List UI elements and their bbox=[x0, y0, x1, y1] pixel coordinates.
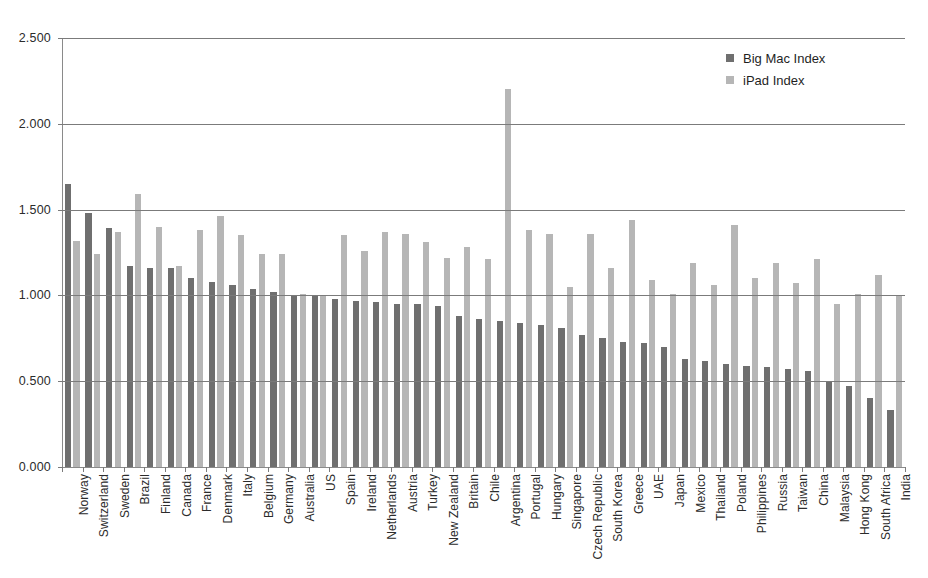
legend-item-big-mac: Big Mac Index bbox=[726, 48, 896, 68]
x-axis-tick-mark bbox=[391, 467, 392, 472]
x-axis-tick-label: Sweden bbox=[118, 474, 132, 518]
bar-big-mac-index bbox=[517, 323, 523, 467]
x-axis-tick-label: Ireland bbox=[365, 474, 379, 511]
gridline bbox=[62, 210, 905, 211]
x-axis-tick-label: Poland bbox=[735, 474, 749, 512]
bar-big-mac-index bbox=[558, 328, 564, 467]
x-axis-tick-mark bbox=[309, 467, 310, 472]
bar-big-mac-index bbox=[394, 304, 400, 467]
x-axis-tick-mark bbox=[247, 467, 248, 472]
x-axis-tick-mark bbox=[473, 467, 474, 472]
chart-legend: Big Mac Index iPad Index bbox=[726, 48, 896, 92]
bar-group bbox=[720, 38, 741, 467]
gridline bbox=[62, 38, 905, 39]
bar-big-mac-index bbox=[661, 347, 667, 467]
bar-group bbox=[597, 38, 618, 467]
bar-group bbox=[412, 38, 433, 467]
x-axis-tick-mark bbox=[453, 467, 454, 472]
bar-big-mac-index bbox=[209, 282, 215, 467]
x-axis-tick-mark bbox=[103, 467, 104, 472]
bar-group bbox=[103, 38, 124, 467]
x-axis-tick-label: Turkey bbox=[426, 474, 440, 511]
x-axis-tick-mark bbox=[699, 467, 700, 472]
x-axis-tick-label: South Korea bbox=[611, 474, 625, 542]
bar-group bbox=[823, 38, 844, 467]
bar-group bbox=[782, 38, 803, 467]
x-axis-tick-label: Argentina bbox=[509, 474, 523, 526]
bar-ipad-index bbox=[690, 263, 696, 467]
bar-group bbox=[206, 38, 227, 467]
bar-group bbox=[391, 38, 412, 467]
x-axis-tick-label: Greece bbox=[632, 474, 646, 514]
x-axis-tick-mark bbox=[864, 467, 865, 472]
bar-group bbox=[494, 38, 515, 467]
bar-group bbox=[226, 38, 247, 467]
x-axis-tick-label: Germany bbox=[282, 474, 296, 524]
x-axis-tick-label: Norway bbox=[77, 474, 91, 515]
bar-big-mac-index bbox=[682, 359, 688, 467]
bar-big-mac-index bbox=[785, 369, 791, 467]
x-axis-tick-label: Czech Republic bbox=[591, 474, 605, 559]
bar-group bbox=[741, 38, 762, 467]
x-axis-tick-mark bbox=[432, 467, 433, 472]
x-axis-tick-label: China bbox=[817, 474, 831, 506]
x-axis-tick-label: Australia bbox=[303, 474, 317, 522]
bar-ipad-index bbox=[567, 287, 573, 467]
bar-group bbox=[83, 38, 104, 467]
bar-big-mac-index bbox=[579, 335, 585, 467]
x-axis-tick-mark bbox=[884, 467, 885, 472]
x-axis-tick-mark bbox=[165, 467, 166, 472]
bar-chart: 0.0000.5001.0001.5002.0002.500 NorwaySwi… bbox=[0, 0, 928, 578]
x-axis-tick-mark bbox=[720, 467, 721, 472]
x-axis-tick-label: Chile bbox=[488, 474, 502, 502]
legend-item-ipad: iPad Index bbox=[726, 70, 896, 90]
bar-group bbox=[473, 38, 494, 467]
x-axis-tick-mark bbox=[288, 467, 289, 472]
bar-big-mac-index bbox=[826, 381, 832, 467]
y-axis-tick-mark bbox=[58, 295, 63, 296]
bar-ipad-index bbox=[115, 232, 121, 467]
bar-group bbox=[535, 38, 556, 467]
bar-big-mac-index bbox=[65, 184, 71, 467]
bar-group bbox=[555, 38, 576, 467]
bar-big-mac-index bbox=[250, 289, 256, 467]
bar-group bbox=[165, 38, 186, 467]
bar-group bbox=[247, 38, 268, 467]
bar-big-mac-index bbox=[456, 316, 462, 467]
x-axis-tick-mark bbox=[741, 467, 742, 472]
x-axis-tick-label: Brazil bbox=[138, 474, 152, 505]
gridline bbox=[62, 124, 905, 125]
x-axis-tick-label: Canada bbox=[180, 474, 194, 517]
legend-swatch-icon bbox=[726, 76, 734, 84]
bar-group bbox=[699, 38, 720, 467]
y-axis-tick-label: 0.000 bbox=[0, 460, 51, 474]
legend-label: iPad Index bbox=[743, 74, 804, 87]
bar-ipad-index bbox=[773, 263, 779, 467]
bar-ipad-index bbox=[361, 251, 367, 467]
y-axis-tick-label: 0.500 bbox=[0, 374, 51, 388]
bar-big-mac-index bbox=[168, 268, 174, 467]
bar-big-mac-index bbox=[373, 302, 379, 467]
bar-big-mac-index bbox=[270, 292, 276, 467]
bar-group bbox=[576, 38, 597, 467]
x-axis-tick-mark bbox=[206, 467, 207, 472]
x-axis-tick-mark bbox=[782, 467, 783, 472]
bar-big-mac-index bbox=[435, 306, 441, 467]
x-axis-tick-label: Spain bbox=[344, 474, 358, 505]
bar-big-mac-index bbox=[867, 398, 873, 467]
bar-group bbox=[329, 38, 350, 467]
y-axis-tick-label: 1.500 bbox=[0, 203, 51, 217]
bar-ipad-index bbox=[279, 254, 285, 467]
y-axis-tick-label: 2.000 bbox=[0, 117, 51, 131]
bar-group bbox=[761, 38, 782, 467]
bar-ipad-index bbox=[526, 230, 532, 467]
x-axis-tick-mark bbox=[823, 467, 824, 472]
bar-ipad-index bbox=[608, 268, 614, 467]
bar-big-mac-index bbox=[353, 301, 359, 467]
bar-big-mac-index bbox=[887, 410, 893, 467]
x-axis-tick-mark bbox=[905, 467, 906, 472]
x-axis-tick-label: Austria bbox=[406, 474, 420, 512]
x-axis-tick-label: Singapore bbox=[570, 474, 584, 530]
x-axis-tick-label: Denmark bbox=[221, 474, 235, 523]
x-axis-tick-mark bbox=[350, 467, 351, 472]
